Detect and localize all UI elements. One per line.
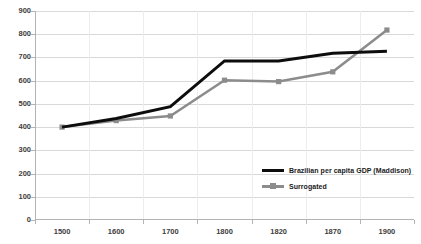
y-axis-tick-label: 600 (3, 77, 31, 85)
x-axis-tick (414, 220, 415, 224)
x-axis-tick (306, 220, 307, 224)
y-axis-tick-label: 0 (3, 216, 31, 224)
x-axis-tick (197, 220, 198, 224)
x-axis-tick-labels: 1500160017001800182018701900 (35, 227, 414, 239)
x-axis-tick (252, 220, 253, 224)
y-axis-tick-label: 400 (3, 123, 31, 131)
x-axis-tick-label: 1800 (205, 227, 245, 236)
y-axis-tick-label: 100 (3, 193, 31, 201)
x-axis-tick (35, 220, 36, 224)
data-point-marker (384, 27, 389, 32)
legend-item-surrogated[interactable]: Surrogated (262, 178, 418, 194)
chart-legend: Brazilian per capita GDP (Maddison) Surr… (262, 162, 418, 194)
x-axis-tick (89, 220, 90, 224)
x-axis-tick-label: 1820 (259, 227, 299, 236)
data-point-marker (222, 78, 227, 83)
y-axis-tick-label: 500 (3, 100, 31, 108)
y-axis-tick-labels: 0100200300400500600700800900 (0, 0, 31, 244)
y-axis-tick-label: 900 (3, 7, 31, 15)
y-axis-tick-label: 800 (3, 30, 31, 38)
chart-container: 0100200300400500600700800900 15001600170… (0, 0, 421, 244)
legend-label-surrogated: Surrogated (289, 183, 327, 190)
x-axis-tick-label: 1900 (367, 227, 407, 236)
x-axis-tick-label: 1500 (42, 227, 82, 236)
y-axis-tick-label: 300 (3, 146, 31, 154)
series-line (62, 51, 387, 127)
x-axis-tick-label: 1600 (96, 227, 136, 236)
data-point-marker (276, 79, 281, 84)
legend-label-maddison: Brazilian per capita GDP (Maddison) (289, 167, 411, 174)
x-axis-tick (143, 220, 144, 224)
y-axis-tick-label: 200 (3, 170, 31, 178)
x-axis-tick (360, 220, 361, 224)
data-point-marker (168, 113, 173, 118)
x-axis-tick-label: 1870 (313, 227, 353, 236)
data-point-marker (330, 69, 335, 74)
y-axis-tick-label: 700 (3, 53, 31, 61)
x-axis-tick-label: 1700 (150, 227, 190, 236)
legend-item-maddison[interactable]: Brazilian per capita GDP (Maddison) (262, 162, 418, 178)
